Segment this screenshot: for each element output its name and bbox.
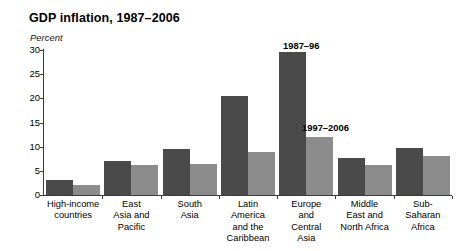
y-axis-tick-mark [40, 123, 43, 124]
y-axis-tick-label: 25 [18, 69, 40, 79]
bar [338, 158, 365, 195]
bar [423, 156, 450, 195]
bar [73, 185, 100, 195]
y-axis-tick-label: 10 [18, 142, 40, 152]
y-axis-tick-mark [40, 98, 43, 99]
x-axis-category-label-line: Asia [161, 210, 219, 221]
x-axis-category-label-line: and the [219, 222, 277, 233]
bar [221, 96, 248, 195]
bar [163, 149, 190, 195]
x-axis-category-label: LatinAmericaand theCaribbean [219, 199, 277, 245]
y-axis-tick-mark [40, 147, 43, 148]
x-axis-category-label-line: Saharan [394, 210, 452, 221]
x-axis-category-label: EuropeandCentralAsia [277, 199, 335, 245]
y-axis-tick-mark [40, 171, 43, 172]
bar-group [104, 50, 158, 195]
bar [131, 165, 158, 195]
bar [248, 152, 275, 196]
x-axis-category-label-line: High-income [44, 199, 102, 210]
series-annotation-1997-2006: 1997–2006 [302, 122, 349, 133]
y-axis-tick-mark [40, 74, 43, 75]
x-axis-category-label: Sub-SaharanAfrica [394, 199, 452, 233]
y-axis-tick-label: 30 [18, 45, 40, 55]
x-axis-category-label-line: Latin [219, 199, 277, 210]
x-axis-category-label-line: and [277, 210, 335, 221]
x-axis-category-label: MiddleEast andNorth Africa [335, 199, 393, 233]
bar-group [46, 50, 100, 195]
x-axis-category-label-line: South [161, 199, 219, 210]
x-axis-category-label: SouthAsia [161, 199, 219, 222]
x-axis-category-label-line: East and [335, 210, 393, 221]
bar [365, 165, 392, 195]
x-axis-category-label-line: Middle [335, 199, 393, 210]
x-axis-category-label-line: America [219, 210, 277, 221]
x-axis-category-label-line: Asia and [102, 210, 160, 221]
bar [306, 137, 333, 195]
y-axis-tick-label: 15 [18, 118, 40, 128]
chart-figure: GDP inflation, 1987–2006 Percent 0510152… [0, 0, 462, 251]
x-axis-tick-mark [452, 196, 453, 199]
y-axis-tick-mark [40, 50, 43, 51]
y-axis-tick-label: 5 [18, 166, 40, 176]
series-annotation-1987-96: 1987–96 [283, 40, 320, 51]
x-axis-category-label-line: Pacific [102, 222, 160, 233]
x-axis-category-label-line: Caribbean [219, 233, 277, 244]
bar-group [221, 50, 275, 195]
y-axis-tick-labels: 051015202530 [0, 0, 40, 251]
bar [46, 180, 73, 195]
y-axis-tick-label: 0 [18, 190, 40, 200]
bar [190, 164, 217, 195]
x-axis-category-label-line: Sub- [394, 199, 452, 210]
bar [396, 148, 423, 195]
x-axis-line [43, 195, 452, 196]
plot-area [44, 50, 452, 195]
bar-group [163, 50, 217, 195]
x-axis-category-label: EastAsia andPacific [102, 199, 160, 233]
bar [104, 161, 131, 195]
x-axis-category-label-line: Africa [394, 222, 452, 233]
x-axis-category-label-line: Europe [277, 199, 335, 210]
x-axis-category-label-line: Asia [277, 233, 335, 244]
x-axis-category-label-line: North Africa [335, 222, 393, 233]
chart-title: GDP inflation, 1987–2006 [29, 11, 180, 25]
bar-group [396, 50, 450, 195]
x-axis-category-label-line: countries [44, 210, 102, 221]
y-axis-tick-mark [40, 195, 43, 196]
x-axis-category-label-line: East [102, 199, 160, 210]
x-axis-category-label: High-incomecountries [44, 199, 102, 222]
y-axis-tick-label: 20 [18, 93, 40, 103]
x-axis-category-label-line: Central [277, 222, 335, 233]
